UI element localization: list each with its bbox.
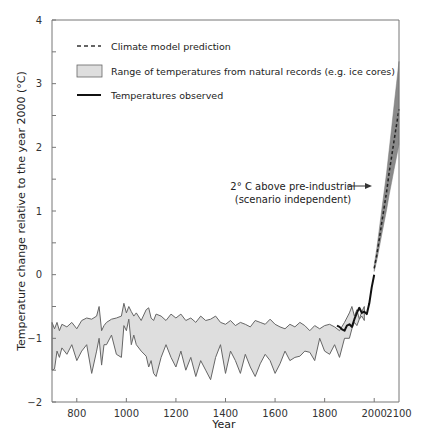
plot-area xyxy=(52,61,399,379)
x-axis-title: Year xyxy=(211,418,236,431)
legend-label-observed: Temperatures observed xyxy=(110,90,223,101)
y-tick-label: −1 xyxy=(27,333,42,344)
y-tick-label: 2 xyxy=(36,142,42,153)
y-tick-label: 4 xyxy=(36,15,42,26)
arrow-head-icon xyxy=(365,183,372,189)
y-axis-title: Temperature change relative to the year … xyxy=(15,71,28,352)
legend-band-swatch xyxy=(77,65,102,77)
annotation: 2° C above pre-industrial (scenario inde… xyxy=(230,181,372,205)
x-tick-label: 1800 xyxy=(312,408,337,419)
y-tick-label: 3 xyxy=(36,78,42,89)
x-tick-label: 2100 xyxy=(386,408,411,419)
x-tick-label: 800 xyxy=(67,408,86,419)
annotation-line-1: 2° C above pre-industrial xyxy=(230,181,355,192)
x-tick-label: 1600 xyxy=(262,408,287,419)
legend-label-model: Climate model prediction xyxy=(111,41,231,52)
y-tick-label: 0 xyxy=(36,269,42,280)
x-tick-label: 1000 xyxy=(114,408,139,419)
x-tick-label: 1200 xyxy=(163,408,188,419)
x-tick-label: 2000 xyxy=(361,408,386,419)
natural-records-band xyxy=(52,303,364,379)
legend: Climate model prediction Range of temper… xyxy=(77,41,395,101)
y-tick-label: 1 xyxy=(36,206,42,217)
y-tick-label: −2 xyxy=(27,397,42,408)
annotation-line-2: (scenario independent) xyxy=(235,194,352,205)
prediction-range-band xyxy=(374,61,399,271)
temperature-chart: −2−1012348001000120014001600180020002100… xyxy=(0,0,425,444)
legend-label-range: Range of temperatures from natural recor… xyxy=(111,66,395,77)
